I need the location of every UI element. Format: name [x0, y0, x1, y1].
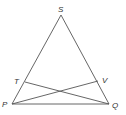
segment-SQ: [61, 15, 109, 104]
label-T: T: [14, 77, 20, 86]
segment-PV: [12, 81, 98, 104]
segment-SP: [12, 15, 61, 104]
triangle-diagram: S T V P Q: [0, 0, 126, 115]
label-P: P: [2, 100, 8, 109]
label-S: S: [58, 5, 64, 14]
segment-TQ: [25, 82, 109, 104]
label-Q: Q: [112, 101, 118, 110]
label-V: V: [102, 76, 108, 85]
